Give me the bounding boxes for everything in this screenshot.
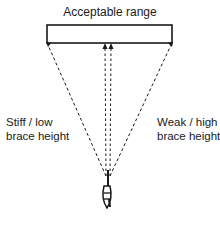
right-label-line1: Weak / high xyxy=(157,115,220,129)
left-label-line2: brace height xyxy=(6,129,69,143)
left-label-line1: Stiff / low xyxy=(6,115,69,129)
center-right-arrowhead-icon xyxy=(109,43,114,49)
stiff-low-brace-label: Stiff / low brace height xyxy=(6,115,69,143)
acceptable-range-title: Acceptable range xyxy=(0,5,220,19)
weak-high-brace-label: Weak / high brace height xyxy=(157,115,220,143)
acceptable-range-box xyxy=(47,25,172,43)
center-trajectory-right xyxy=(110,48,111,176)
center-trajectory-left xyxy=(105,48,106,176)
right-trajectory xyxy=(110,45,171,176)
center-left-arrowhead-icon xyxy=(103,43,108,49)
right-label-line2: brace height xyxy=(157,129,220,143)
left-trajectory xyxy=(48,45,106,176)
